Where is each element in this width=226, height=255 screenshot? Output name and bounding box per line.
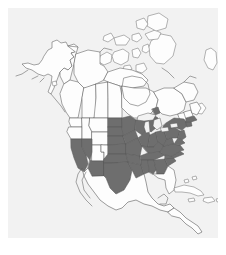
southampton-island [136,63,147,73]
bathurst-island [132,33,142,42]
canada-group [60,46,206,122]
hispaniola-island [203,197,215,203]
state-SD[interactable] [108,127,123,136]
prince-patrick-island [103,33,114,42]
state-WA[interactable] [69,118,82,127]
state-ND[interactable] [108,118,122,127]
victoria-island [112,49,129,65]
bahamas-islands [184,176,197,183]
caribbean-group [174,176,218,203]
north-america-map[interactable] [8,8,218,238]
state-KS[interactable] [108,144,126,154]
jamaica-island [188,198,195,202]
province-british-columbia[interactable] [60,80,84,118]
yucatan-peninsula [158,194,168,204]
banks-island [99,52,112,65]
melville-island [114,35,130,45]
state-OK[interactable] [104,154,128,163]
ellesmere-island [147,13,168,31]
state-MT[interactable] [89,118,108,132]
province-alberta[interactable] [82,84,96,118]
prince-of-wales-island [132,48,141,58]
province-ontario[interactable] [122,86,158,118]
lake-ontario [170,123,178,128]
axel-heiberg-island [136,18,148,30]
state-OR[interactable] [67,127,82,139]
province-manitoba[interactable] [108,82,122,118]
state-WY[interactable] [92,132,108,145]
greenland-shape [204,48,217,70]
map-plot-area [8,8,218,238]
central-america-shape[interactable] [168,208,202,234]
mexico-central-america-group [76,168,202,234]
arctic-archipelago-group [99,13,176,73]
cuba-island [174,185,204,196]
province-saskatchewan[interactable] [94,82,108,118]
lake-erie [160,127,169,132]
puerto-rico-island [216,198,218,202]
state-TN[interactable] [140,152,165,160]
map-figure [0,0,226,255]
greenland-group [204,48,217,70]
somerset-island [142,44,150,53]
kodiak-island [52,81,57,86]
